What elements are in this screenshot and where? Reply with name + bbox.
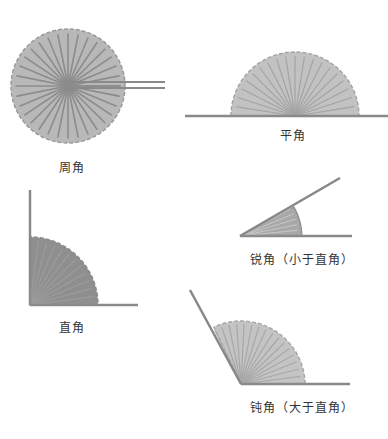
full-angle-label: 周角 bbox=[59, 158, 85, 175]
angle-types-diagram bbox=[0, 0, 388, 439]
obtuse-angle-figure bbox=[190, 290, 350, 384]
right-angle-label: 直角 bbox=[59, 318, 85, 335]
acute-angle-label: 锐角（小于直角） bbox=[250, 250, 354, 267]
acute-angle-figure bbox=[240, 178, 352, 236]
straight-angle-label: 平角 bbox=[280, 126, 306, 143]
straight-angle-figure bbox=[185, 52, 388, 116]
obtuse-angle-label: 钝角（大于直角） bbox=[250, 398, 354, 415]
right-angle-figure bbox=[30, 190, 138, 305]
full-angle-figure bbox=[11, 29, 165, 143]
